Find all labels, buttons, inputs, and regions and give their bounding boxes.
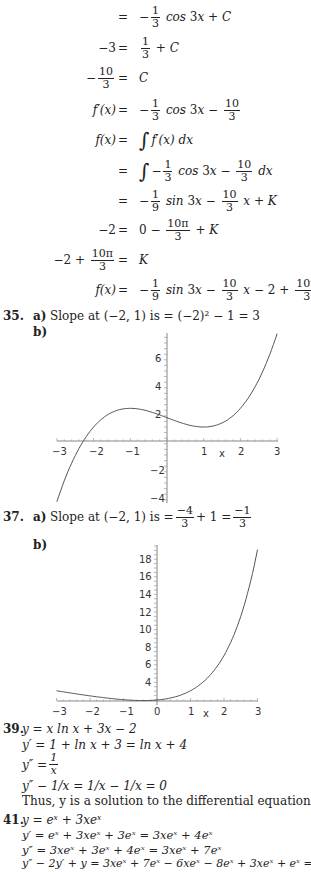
svg-text:4: 4	[155, 381, 161, 392]
part-label: a)	[33, 510, 46, 524]
part-label: b)	[33, 538, 47, 552]
svg-text:2: 2	[221, 706, 227, 717]
svg-text:−2: −2	[150, 465, 165, 476]
svg-text:x: x	[203, 708, 209, 719]
svg-text:3: 3	[255, 706, 261, 717]
svg-text:14: 14	[139, 589, 152, 600]
svg-text:18: 18	[139, 554, 152, 565]
svg-text:−3: −3	[52, 446, 67, 457]
svg-text:2: 2	[155, 409, 161, 420]
svg-text:12: 12	[139, 607, 152, 618]
svg-text:16: 16	[139, 571, 152, 582]
svg-text:6: 6	[145, 659, 151, 670]
svg-text:6: 6	[155, 353, 161, 364]
svg-text:−1: −1	[119, 706, 134, 717]
svg-text:−1: −1	[125, 446, 140, 457]
svg-text:1: 1	[201, 446, 207, 457]
svg-text:0: 0	[154, 706, 160, 717]
svg-text:10: 10	[139, 624, 152, 635]
svg-text:−2: −2	[89, 446, 104, 457]
svg-text:1: 1	[188, 706, 194, 717]
svg-text:−3: −3	[52, 706, 67, 717]
part-a-text: Slope at (−2, 1) is = −43 + 1 = −13	[50, 503, 253, 531]
svg-text:2: 2	[238, 446, 244, 457]
problem-number: 37.	[3, 510, 24, 524]
svg-text:x: x	[219, 448, 225, 459]
svg-text:4: 4	[145, 677, 151, 688]
svg-text:−2: −2	[85, 706, 100, 717]
problem-number: 41.	[3, 813, 24, 827]
svg-text:8: 8	[145, 642, 151, 653]
problem-number: 39.	[3, 722, 24, 736]
svg-text:3: 3	[274, 446, 280, 457]
